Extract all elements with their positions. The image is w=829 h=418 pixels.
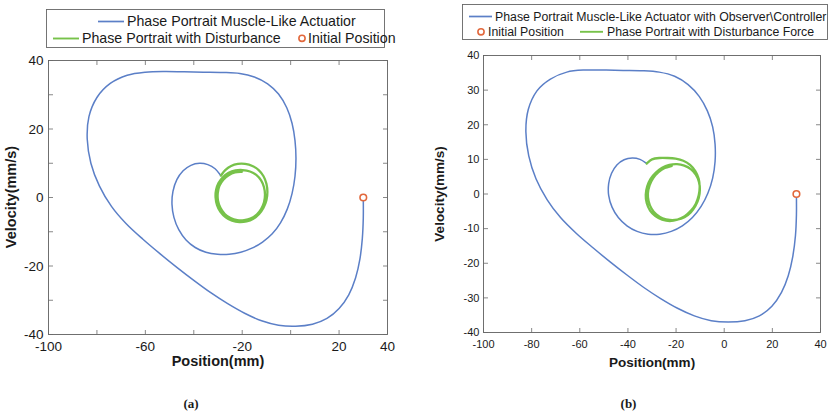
y-tick-label: -20	[24, 259, 44, 274]
legend-a-label-1: Phase Portrait with Disturbance	[82, 30, 281, 46]
x-tick-label: 40	[814, 338, 826, 350]
x-axis-title-a: Position(mm)	[172, 353, 265, 369]
legend-a: Phase Portrait Muscle-Like Actuatior Pha…	[47, 10, 396, 48]
y-tick-label: 40	[28, 53, 43, 68]
legend-b-label-1: Initial Position	[488, 25, 564, 39]
y-tick-label: 40	[467, 49, 479, 61]
y-axis-title-b: Velocity(mm/s)	[432, 146, 447, 241]
plot-b-frame	[484, 56, 821, 333]
x-tick-label: -20	[232, 339, 252, 354]
legend-b-label-0: Phase Portrait Muscle-Like Actuator with…	[495, 10, 826, 24]
subcaption-b: (b)	[421, 396, 829, 412]
curve-blue-b	[526, 70, 797, 322]
initial-position-marker-b	[793, 191, 800, 198]
x-tick-label: 40	[380, 339, 395, 354]
plot-b-ticks	[484, 56, 821, 333]
x-tick-label: -20	[668, 338, 684, 350]
x-tick-label: -60	[572, 338, 588, 350]
x-tick-label: -100	[472, 338, 494, 350]
plot-b: -100-80-60-40-2002040-40-30-20-100102030…	[464, 49, 827, 349]
plot-a: -100-60-202040-40-2002040	[24, 53, 395, 353]
panel-b: Phase Portrait Muscle-Like Actuator with…	[414, 0, 829, 418]
panel-b-svg: Phase Portrait Muscle-Like Actuator with…	[414, 0, 829, 392]
subcaption-a: (a)	[0, 396, 398, 412]
initial-position-marker-a	[360, 194, 367, 201]
x-tick-label: -80	[524, 338, 540, 350]
x-tick-label: -60	[136, 339, 156, 354]
legend-b: Phase Portrait Muscle-Like Actuator with…	[463, 5, 828, 40]
x-tick-label: 0	[721, 338, 727, 350]
y-tick-label: -20	[464, 257, 480, 269]
legend-b-label-2: Phase Portrait with Disturbance Force	[607, 25, 814, 39]
y-tick-label: -10	[464, 222, 480, 234]
y-tick-label: 0	[36, 190, 44, 205]
curve-green-b	[646, 158, 700, 221]
y-tick-label: -30	[464, 292, 480, 304]
y-tick-label: 10	[467, 153, 479, 165]
y-tick-label: 0	[473, 188, 479, 200]
x-axis-title-b: Position(mm)	[609, 355, 695, 370]
panel-a: Phase Portrait Muscle-Like Actuatior Pha…	[0, 0, 414, 418]
legend-a-initial-position-icon	[299, 35, 305, 41]
x-tick-label: 20	[332, 339, 347, 354]
phase-portrait-figure: Phase Portrait Muscle-Like Actuatior Pha…	[0, 0, 829, 418]
y-tick-label: 20	[28, 122, 43, 137]
y-tick-label: -40	[464, 326, 480, 338]
y-tick-label: -40	[24, 327, 44, 342]
legend-a-label-2: Initial Position	[308, 30, 396, 46]
legend-b-initial-position-icon	[478, 29, 484, 35]
y-tick-label: 20	[467, 119, 479, 131]
curve-green-a	[216, 164, 268, 223]
legend-a-label-0: Phase Portrait Muscle-Like Actuatior	[127, 13, 356, 29]
x-tick-label: 20	[766, 338, 778, 350]
y-axis-title-a: Velocity(mm/s)	[3, 146, 19, 249]
panel-a-svg: Phase Portrait Muscle-Like Actuatior Pha…	[0, 0, 414, 392]
curve-blue-a	[87, 71, 363, 326]
y-tick-label: 30	[467, 84, 479, 96]
x-tick-label: -40	[620, 338, 636, 350]
